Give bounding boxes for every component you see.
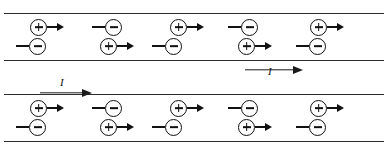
positive-charge-icon <box>238 119 255 136</box>
current-label: I <box>268 66 272 77</box>
negative-charge-icon <box>241 19 258 36</box>
charge-carrier-plus <box>100 36 134 56</box>
positive-charge-icon <box>100 119 117 136</box>
charge-carrier-minus <box>12 117 46 137</box>
charge-carrier-minus <box>148 117 182 137</box>
current-indicator <box>245 62 303 84</box>
current-indicator <box>40 85 92 107</box>
charge-carrier-minus <box>292 117 326 137</box>
charge-carrier-minus <box>148 36 182 56</box>
velocity-arrow-right-icon <box>187 104 204 112</box>
charge-carrier-plus <box>100 117 134 137</box>
carrier-row-lower <box>0 117 388 137</box>
carrier-row-upper <box>0 17 388 37</box>
velocity-arrow-left-icon <box>224 23 241 31</box>
negative-charge-icon <box>309 38 326 55</box>
charge-carrier-minus <box>224 98 258 118</box>
velocity-arrow-right-icon <box>255 42 272 50</box>
velocity-arrow-left-icon <box>224 104 241 112</box>
velocity-arrow-left-icon <box>148 42 165 50</box>
velocity-arrow-left-icon <box>88 23 105 31</box>
charge-carrier-minus <box>292 36 326 56</box>
charge-carrier-plus <box>170 98 204 118</box>
negative-charge-icon <box>29 119 46 136</box>
physics-figure: II <box>0 0 388 149</box>
carrier-row-lower <box>0 36 388 56</box>
charge-carrier-minus <box>88 17 122 37</box>
negative-charge-icon <box>105 100 122 117</box>
velocity-arrow-right-icon <box>47 23 64 31</box>
positive-charge-icon <box>170 100 187 117</box>
charge-carrier-minus <box>12 36 46 56</box>
velocity-arrow-left-icon <box>148 123 165 131</box>
charge-carrier-plus <box>170 17 204 37</box>
negative-charge-icon <box>165 38 182 55</box>
charge-carrier-minus <box>224 17 258 37</box>
velocity-arrow-left-icon <box>292 42 309 50</box>
current-arrow-right-icon <box>40 89 92 97</box>
charge-carrier-plus <box>238 36 272 56</box>
velocity-arrow-left-icon <box>292 123 309 131</box>
conductor-wall-bottom <box>4 141 384 142</box>
velocity-arrow-left-icon <box>12 123 29 131</box>
current-label: I <box>60 77 64 88</box>
velocity-arrow-right-icon <box>117 123 134 131</box>
positive-charge-icon <box>30 19 47 36</box>
negative-charge-icon <box>105 19 122 36</box>
charge-carrier-minus <box>88 98 122 118</box>
negative-charge-icon <box>309 119 326 136</box>
conductor-wall-top <box>4 13 384 14</box>
negative-charge-icon <box>29 38 46 55</box>
negative-charge-icon <box>241 100 258 117</box>
velocity-arrow-right-icon <box>187 23 204 31</box>
charge-carrier-plus <box>310 17 344 37</box>
charge-carrier-plus <box>310 98 344 118</box>
positive-charge-icon <box>238 38 255 55</box>
charge-carrier-plus <box>238 117 272 137</box>
velocity-arrow-right-icon <box>255 123 272 131</box>
conductor-top <box>0 13 388 61</box>
positive-charge-icon <box>310 100 327 117</box>
positive-charge-icon <box>170 19 187 36</box>
positive-charge-icon <box>310 19 327 36</box>
positive-charge-icon <box>100 38 117 55</box>
negative-charge-icon <box>165 119 182 136</box>
conductor-wall-bottom <box>4 60 384 61</box>
current-arrow-right-icon <box>245 66 303 74</box>
charge-carrier-plus <box>30 17 64 37</box>
velocity-arrow-right-icon <box>327 104 344 112</box>
velocity-arrow-right-icon <box>327 23 344 31</box>
velocity-arrow-left-icon <box>12 42 29 50</box>
velocity-arrow-right-icon <box>117 42 134 50</box>
